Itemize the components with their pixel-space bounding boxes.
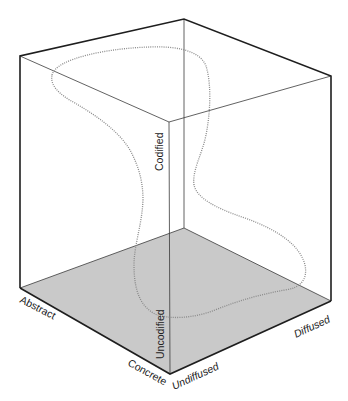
label-codified: Codified (153, 132, 165, 171)
edge-top-front-right (169, 76, 331, 122)
cube-floor (20, 228, 331, 374)
edge-top-front-left (20, 56, 169, 122)
cube-diagram: Codified Uncodified Abstract Concrete Un… (0, 0, 348, 401)
label-uncodified: Uncodified (154, 309, 166, 359)
